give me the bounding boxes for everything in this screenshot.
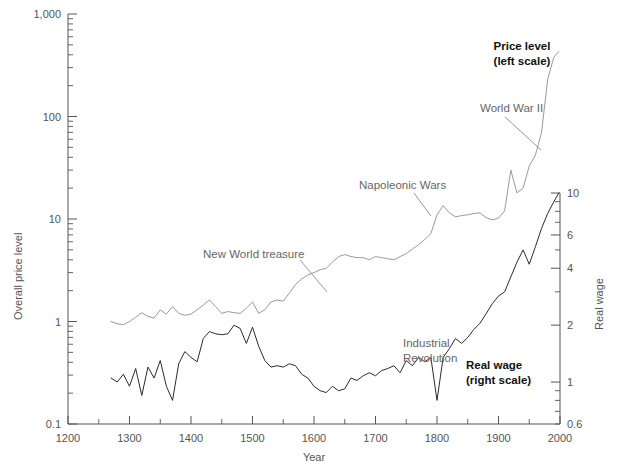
annotation-world-war-2: World War II (480, 102, 543, 114)
y2-axis-title: Real wage (593, 278, 605, 330)
annotation-price-level-line2: (left scale) (494, 55, 551, 67)
leader-line-new-world (300, 260, 327, 292)
y-axis-left-ticks: 0.11101001,000 (33, 8, 77, 430)
leader-line-wwii (505, 117, 541, 150)
y2-tick-label: 0.6 (567, 418, 582, 430)
y-tick-label: 1,000 (33, 8, 61, 20)
chart-container: 0.11101001,000 0.6124610 120013001400150… (0, 0, 620, 466)
x-tick-label: 1400 (179, 432, 203, 444)
y2-tick-label: 10 (567, 187, 579, 199)
x-tick-label: 1500 (240, 432, 264, 444)
annotation-new-world-treasure: New World treasure (203, 248, 304, 260)
x-tick-label: 1300 (117, 432, 141, 444)
x-tick-label: 1900 (486, 432, 510, 444)
annotation-leader-lines (300, 117, 541, 292)
annotation-real-wage-line1: Real wage (466, 359, 522, 371)
y-axis-right-ticks: 0.6124610 (551, 187, 582, 430)
x-tick-label: 2000 (548, 432, 572, 444)
x-axis-title: Year (303, 451, 326, 463)
cropped-title-remnant (68, 0, 398, 6)
y-tick-label: 0.1 (46, 418, 61, 430)
y-tick-label: 100 (43, 111, 61, 123)
y-tick-label: 10 (49, 213, 61, 225)
y2-tick-label: 4 (567, 262, 573, 274)
y-axis-title: Overall price level (12, 233, 24, 320)
y-tick-label: 1 (55, 316, 61, 328)
x-tick-label: 1700 (363, 432, 387, 444)
x-tick-label: 1600 (302, 432, 326, 444)
y2-tick-label: 2 (567, 319, 573, 331)
annotation-real-wage-line2: (right scale) (466, 374, 531, 386)
x-tick-label: 1800 (425, 432, 449, 444)
annotation-industrial-revolution-line1: Industrial (403, 337, 450, 349)
x-tick-label: 1200 (56, 432, 80, 444)
y2-tick-label: 6 (567, 229, 573, 241)
leader-line-napoleonic (414, 193, 431, 216)
y2-tick-label: 1 (567, 376, 573, 388)
annotation-price-level-line1: Price level (494, 40, 551, 52)
annotation-industrial-revolution-line2: Revolution (403, 352, 457, 364)
price-level-real-wage-chart: 0.11101001,000 0.6124610 120013001400150… (0, 0, 620, 466)
series-line-price-level (111, 52, 559, 325)
x-axis-ticks: 120013001400150016001700180019002000 (56, 416, 572, 444)
annotation-napoleonic-wars: Napoleonic Wars (359, 179, 446, 191)
